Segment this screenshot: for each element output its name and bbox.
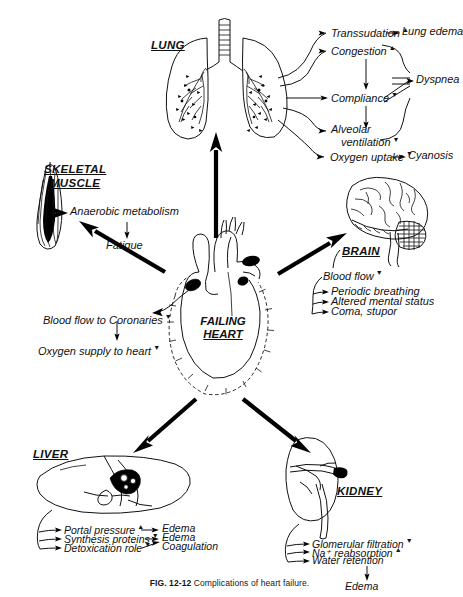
down-arrow-icon: ▼ xyxy=(163,313,171,320)
coronary-effect-oxygen-supply-text: Oxygen supply to heart xyxy=(38,345,151,357)
down-arrow-icon: ▼ xyxy=(142,541,150,548)
down-arrow-icon: ▼ xyxy=(389,91,397,98)
figure-caption-label: FIG. 12-12 xyxy=(150,578,192,588)
kidney-effect-water-retention: Water retention xyxy=(312,555,384,566)
coronary-effect-blood-flow: Blood flow to Coronaries▼ xyxy=(43,313,171,326)
muscle-effect-pointer xyxy=(51,207,68,219)
muscle-effect-fatigue: Fatigue xyxy=(106,240,143,252)
brain-effect-blood-flow-text: Blood flow xyxy=(323,270,374,282)
lung-effect-compliance-text: Compliance xyxy=(331,92,389,104)
liver-effect-detoxication-role-text: Detoxication role xyxy=(64,542,142,554)
coronary-effect-blood-flow-text: Blood flow to Coronaries xyxy=(43,314,163,326)
lung-outcome-lung-edema: Lung edema xyxy=(402,26,463,38)
down-arrow-icon: ▼ xyxy=(391,136,399,143)
lung-illustration xyxy=(166,19,287,140)
down-arrow-icon: ▼ xyxy=(374,269,382,276)
down-arrow-icon: ▼ xyxy=(150,532,158,539)
liver-illustration xyxy=(37,456,190,513)
brain-outcome-brace xyxy=(312,277,329,314)
heart-illustration xyxy=(152,217,274,395)
arrow-heart-to-liver xyxy=(133,399,196,453)
lung-effect-congestion-text: Congestion xyxy=(331,45,387,57)
organ-label-brain: BRAIN xyxy=(342,245,380,257)
up-arrow-icon: ▲ xyxy=(135,523,143,530)
down-arrow-icon: ▼ xyxy=(404,537,412,544)
figure-caption: FIG. 12-12 Complications of heart failur… xyxy=(0,578,459,588)
lung-effect-compliance: Compliance▼ xyxy=(331,91,397,104)
lung-effect-congestion: Congestion▲ xyxy=(331,44,395,57)
failing-heart-label: FAILING HEART xyxy=(186,315,260,341)
failing-heart-line1: FAILING xyxy=(200,315,245,327)
lung-outcome-cyanosis: Cyanosis xyxy=(408,150,453,162)
arrow-heart-to-lung xyxy=(210,132,222,238)
lung-effect-transsudation-text: Transsudation xyxy=(331,27,400,39)
up-arrow-icon: ▲ xyxy=(387,44,395,51)
lung-effect-alveolar-text: Alveolar xyxy=(331,123,371,135)
liver-outcome-coagulation: Coagulation xyxy=(162,541,218,552)
lung-effect-ventilation-text: ventilation xyxy=(331,136,391,148)
figure-caption-text: Complications of heart failure. xyxy=(194,578,310,588)
down-arrow-icon: ▼ xyxy=(151,344,159,351)
organ-label-lung: LUNG xyxy=(151,39,185,51)
failing-heart-line2: HEART xyxy=(203,328,242,340)
arrow-heart-to-kidney xyxy=(243,399,311,453)
lung-effect-transsudation: Transsudation▲ xyxy=(331,26,408,39)
organ-label-skeletal-muscle: SKELETAL MUSCLE xyxy=(44,163,106,191)
organ-label-muscle: MUSCLE xyxy=(50,177,100,189)
brain-outcome-coma-stupor: Coma, stupor xyxy=(331,306,397,318)
brain-leader xyxy=(333,250,340,268)
up-arrow-icon: ▲ xyxy=(393,546,401,553)
organ-label-skeletal: SKELETAL xyxy=(44,163,106,175)
organ-label-kidney: KIDNEY xyxy=(337,485,382,497)
lung-effect-oxygen-uptake-text: Oxygen uptake xyxy=(330,151,404,163)
brain-effect-blood-flow: Blood flow▼ xyxy=(323,269,382,282)
lung-effect-alveolar-ventilation: Alveolarventilation▼ xyxy=(331,124,398,149)
liver-effect-detoxication-role: Detoxication role▼ xyxy=(64,541,150,554)
organ-label-liver: LIVER xyxy=(33,448,68,460)
lung-effect-oxygen-uptake: Oxygen uptake▼ xyxy=(330,150,412,163)
lung-outcome-dyspnea: Dyspnea xyxy=(416,74,459,86)
coronary-effect-oxygen-supply: Oxygen supply to heart▼ xyxy=(38,344,159,357)
muscle-effect-anaerobic-metabolism: Anaerobic metabolism xyxy=(70,206,179,218)
